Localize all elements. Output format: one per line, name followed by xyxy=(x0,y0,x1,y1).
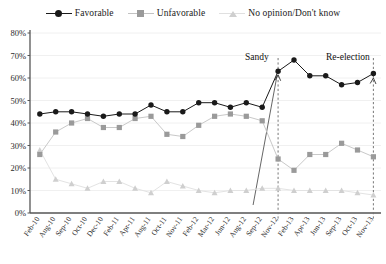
annotation-label-re-election: Re-election xyxy=(326,52,370,62)
data-point-marker xyxy=(53,129,58,134)
data-point-marker xyxy=(307,73,312,78)
chart-plot-area: 0%10%20%30%40%50%60%70%80% Feb-10Aug-10S… xyxy=(0,0,386,264)
data-point-marker xyxy=(291,168,296,173)
y-tick-label: 30% xyxy=(10,141,26,151)
x-axis-tick-labels: Feb-10Aug-10Sep-10Oct-10Dec-10Feb-11Apr-… xyxy=(22,215,375,239)
data-point-marker xyxy=(132,185,138,190)
y-tick-label: 0% xyxy=(15,208,26,218)
data-point-marker xyxy=(148,102,153,107)
data-point-marker xyxy=(69,109,74,114)
data-point-marker xyxy=(307,152,312,157)
data-point-marker xyxy=(180,134,185,139)
y-tick-label: 50% xyxy=(10,96,26,106)
y-tick-label: 80% xyxy=(10,28,26,38)
data-point-marker xyxy=(291,57,296,62)
data-point-marker xyxy=(53,176,59,181)
x-tick-label: Aug-11 xyxy=(132,215,153,239)
data-point-marker xyxy=(101,114,106,119)
y-tick-label: 20% xyxy=(10,163,26,173)
data-point-marker xyxy=(260,118,265,123)
data-point-marker xyxy=(323,152,328,157)
data-point-marker xyxy=(212,100,217,105)
favorability-line-chart: Favorable Unfavorable No opinion/Don't k… xyxy=(0,0,386,264)
y-tick-label: 10% xyxy=(10,186,26,196)
data-point-marker xyxy=(339,141,344,146)
data-point-marker xyxy=(164,132,169,137)
data-point-marker xyxy=(69,120,74,125)
data-point-marker xyxy=(323,73,328,78)
data-point-marker xyxy=(371,154,376,159)
y-tick-label: 60% xyxy=(10,73,26,83)
data-point-marker xyxy=(371,71,376,76)
data-point-marker xyxy=(244,114,249,119)
data-point-marker xyxy=(244,100,249,105)
data-point-marker xyxy=(228,111,233,116)
data-point-marker xyxy=(164,109,169,114)
series-line-unfavorable xyxy=(40,114,374,170)
x-tick-label: Nov-13 xyxy=(354,215,375,239)
x-tick-label: Dec-10 xyxy=(85,215,105,239)
series-line-favorable xyxy=(40,60,374,116)
data-point-marker xyxy=(37,111,42,116)
x-tick-label: Sep-10 xyxy=(54,215,74,238)
x-tick-label: Aug-10 xyxy=(37,215,58,239)
x-tick-label: Sep-13 xyxy=(324,215,344,238)
data-point-marker xyxy=(196,123,201,128)
data-point-marker xyxy=(117,111,122,116)
y-axis-tick-labels: 0%10%20%30%40%50%60%70%80% xyxy=(10,28,26,218)
y-tick-label: 40% xyxy=(10,118,26,128)
annotation-label-sandy: Sandy xyxy=(245,52,269,62)
data-point-marker xyxy=(275,69,280,74)
y-tick-label: 70% xyxy=(10,51,26,61)
data-point-marker xyxy=(132,111,137,116)
x-tick-label: Nov-11 xyxy=(164,215,185,239)
data-point-marker xyxy=(37,152,42,157)
data-point-marker xyxy=(276,156,281,161)
data-point-marker xyxy=(117,125,122,130)
data-point-marker xyxy=(164,179,170,184)
data-point-marker xyxy=(180,109,185,114)
data-point-marker xyxy=(212,114,217,119)
data-point-marker xyxy=(101,125,106,130)
data-point-marker xyxy=(260,105,265,110)
data-point-marker xyxy=(85,111,90,116)
data-point-marker xyxy=(228,105,233,110)
data-point-marker xyxy=(196,100,201,105)
data-point-marker xyxy=(53,109,58,114)
x-tick-label: Mar-12 xyxy=(196,215,216,239)
data-point-marker xyxy=(339,82,344,87)
data-point-marker xyxy=(355,147,360,152)
x-tick-label: Apr-13 xyxy=(292,215,312,238)
x-tick-label: Aug-12 xyxy=(227,215,248,239)
annotation-leader-line xyxy=(253,75,277,205)
data-point-marker xyxy=(355,80,360,85)
x-tick-label: Nov-12 xyxy=(259,215,280,239)
data-point-marker xyxy=(148,114,153,119)
